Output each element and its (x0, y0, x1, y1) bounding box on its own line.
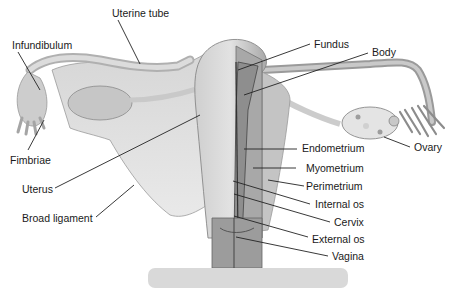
label-endometrium: Endometrium (302, 142, 364, 154)
label-infundibulum: Infundibulum (12, 39, 72, 51)
leader-line-broad-ligament (96, 185, 134, 217)
label-myometrium: Myometrium (306, 162, 364, 174)
caption-bar (148, 268, 348, 288)
label-vagina: Vagina (332, 250, 364, 262)
label-broad-ligament: Broad ligament (22, 212, 93, 224)
label-ovary: Ovary (414, 141, 442, 153)
label-fundus: Fundus (314, 38, 349, 50)
label-perimetrium: Perimetrium (306, 180, 363, 192)
leader-line-ovary (384, 137, 410, 147)
label-external-os: External os (312, 233, 365, 245)
label-uterine-tube: Uterine tube (112, 7, 169, 19)
label-fimbriae: Fimbriae (10, 154, 51, 166)
label-uterus: Uterus (22, 183, 53, 195)
left-broad-ligament (52, 48, 215, 216)
label-internal-os: Internal os (315, 198, 364, 210)
uterus (195, 39, 267, 268)
leader-line-uterine-tube (118, 20, 140, 64)
label-cervix: Cervix (334, 216, 364, 228)
label-body: Body (372, 46, 396, 58)
